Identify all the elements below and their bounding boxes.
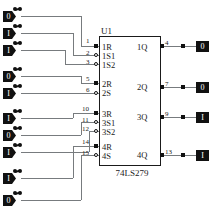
pin-label-3s2: 3S2 — [102, 128, 115, 136]
switch-terminals-icon — [13, 41, 24, 47]
switch-value: 0 — [5, 11, 12, 22]
output-probe-3[interactable]: I — [196, 112, 209, 123]
pin-marker-3 — [94, 62, 98, 66]
switch-terminals-icon — [13, 191, 24, 197]
pin-marker-1 — [94, 44, 98, 48]
probe-node-3 — [181, 115, 185, 119]
input-switch-5[interactable]: I — [3, 88, 19, 99]
pin-label-3r: 3R — [102, 110, 112, 118]
wire-sw1-drop — [81, 16, 82, 46]
input-switch-1[interactable]: 0 — [3, 11, 19, 22]
switch-value: 0 — [5, 195, 12, 206]
pin-label-1q: 1Q — [137, 43, 147, 51]
switch-terminals-icon — [13, 24, 24, 30]
switch-value: 0 — [5, 130, 12, 141]
input-switch-10[interactable]: 0 — [3, 195, 19, 206]
wire-sw8 — [21, 152, 89, 153]
pin-number-9: 9 — [165, 111, 169, 118]
ic-part-number-label: 74LS279 — [101, 168, 163, 178]
switch-terminals-icon — [13, 169, 24, 175]
pin-marker-2 — [94, 53, 98, 57]
probe-value: 0 — [196, 41, 209, 52]
switch-terminals-icon — [13, 126, 24, 132]
pin-marker-7 — [160, 85, 164, 89]
switch-value: I — [5, 147, 12, 158]
pin-number-15: 15 — [82, 150, 89, 157]
output-probe-1[interactable]: 0 — [196, 41, 209, 52]
input-switch-2[interactable]: I — [3, 28, 19, 39]
wire-sw9 — [21, 178, 73, 179]
switch-value: I — [5, 28, 12, 39]
wire-sw3-drop — [65, 50, 66, 64]
pin-label-3q: 3Q — [137, 113, 147, 121]
pin-label-4s: 4S — [102, 152, 111, 160]
pin-label-2r: 2R — [102, 80, 112, 88]
input-switch-4[interactable]: 0 — [3, 71, 19, 82]
wire-sw10 — [21, 200, 81, 201]
switch-terminals-icon — [13, 67, 24, 73]
pin-label-4r: 4R — [102, 143, 112, 151]
pin-marker-11 — [94, 120, 98, 124]
pin-marker-14 — [94, 144, 98, 148]
pin-marker-15 — [94, 153, 98, 157]
pin-marker-4 — [160, 44, 164, 48]
pin-label-1s2: 1S2 — [102, 61, 115, 69]
wire-sw1 — [21, 16, 82, 17]
pin-label-3s1: 3S1 — [102, 119, 115, 127]
input-switch-3[interactable]: I — [3, 45, 19, 56]
pin-number-1: 1 — [86, 38, 90, 45]
switch-terminals-icon — [13, 109, 24, 115]
wire-sw3 — [21, 50, 65, 51]
pin-label-2s: 2S — [102, 89, 111, 97]
probe-node-2 — [181, 85, 185, 89]
pin-marker-13 — [160, 153, 164, 157]
switch-terminals-icon — [13, 84, 24, 90]
output-probe-2[interactable]: 0 — [196, 82, 209, 93]
pin-label-1r: 1R — [102, 43, 112, 51]
switch-value: I — [5, 88, 12, 99]
pin-number-10: 10 — [82, 106, 89, 113]
pin-number-12: 12 — [82, 126, 89, 133]
switch-value: I — [5, 45, 12, 56]
schematic-canvas: U1 74LS279 1 1R 2 1S1 3 1S2 5 2R 6 2S 10… — [0, 0, 212, 215]
pin-label-1s1: 1S1 — [102, 52, 115, 60]
wire-sw2 — [21, 33, 73, 34]
switch-terminals-icon — [13, 7, 24, 13]
probe-node-1 — [181, 44, 185, 48]
switch-value: 0 — [5, 71, 12, 82]
pin-number-13: 13 — [165, 149, 172, 156]
pin-marker-5 — [94, 81, 98, 85]
pin-number-11: 11 — [82, 117, 89, 124]
pin-number-7: 7 — [165, 81, 169, 88]
pin-label-2q: 2Q — [137, 83, 147, 91]
switch-value: I — [5, 173, 12, 184]
pin-number-6: 6 — [86, 87, 90, 94]
wire-sw4-drop — [81, 76, 82, 83]
input-switch-7[interactable]: 0 — [3, 130, 19, 141]
switch-value: I — [5, 113, 12, 124]
wire-sw9-rise — [73, 146, 74, 178]
input-switch-6[interactable]: I — [3, 113, 19, 124]
probe-node-4 — [181, 153, 185, 157]
pin-number-4: 4 — [165, 40, 169, 47]
pin-number-3: 3 — [86, 59, 90, 66]
pin-number-5: 5 — [86, 76, 90, 83]
pin-marker-12 — [94, 129, 98, 133]
switch-terminals-icon — [13, 143, 24, 149]
wire-sw6 — [21, 118, 73, 119]
input-switch-8[interactable]: I — [3, 147, 19, 158]
output-probe-4[interactable]: I — [196, 150, 209, 161]
pin-number-14: 14 — [82, 139, 89, 146]
pin-marker-9 — [160, 115, 164, 119]
pin-label-4q: 4Q — [137, 151, 147, 159]
probe-value: 0 — [196, 82, 209, 93]
pin-marker-10 — [94, 111, 98, 115]
pin-marker-6 — [94, 91, 98, 95]
wire-sw2-drop — [73, 33, 74, 55]
probe-value: I — [196, 112, 209, 123]
wire-sw8-rise — [89, 131, 90, 152]
input-switch-9[interactable]: I — [3, 173, 19, 184]
ic-reference-label: U1 — [101, 26, 112, 36]
wire-sw10-rise — [81, 155, 82, 200]
probe-value: I — [196, 150, 209, 161]
